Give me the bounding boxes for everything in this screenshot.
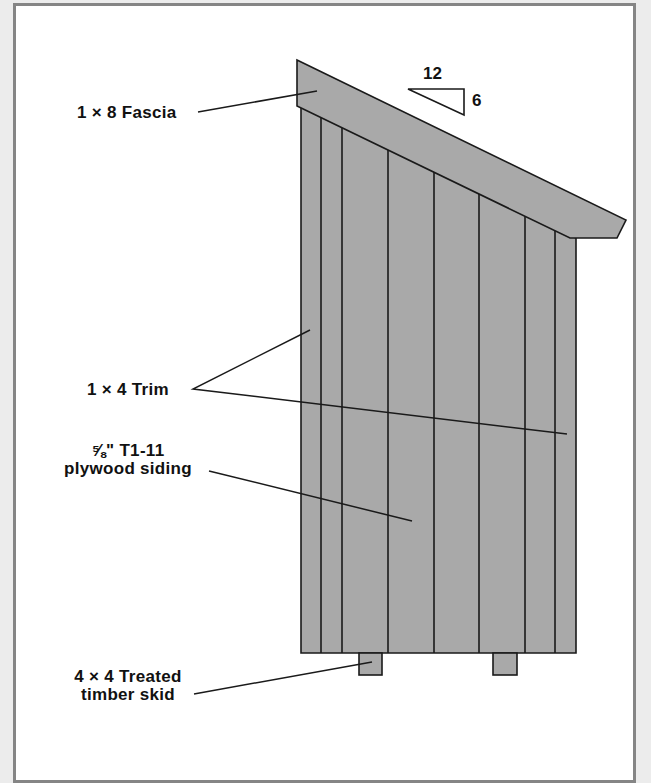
roof-slope-indicator bbox=[408, 89, 464, 115]
trim-label: 1 × 4 Trim bbox=[87, 381, 169, 399]
skid-label-line1: 4 × 4 Treated bbox=[62, 668, 194, 686]
skid-label-line2: timber skid bbox=[62, 686, 194, 704]
slope-rise-label: 6 bbox=[472, 91, 481, 111]
siding-label-line1: ⅝" T1-11 bbox=[52, 442, 204, 460]
skid-label: 4 × 4 Treated timber skid bbox=[62, 668, 194, 704]
skid-right bbox=[493, 653, 517, 675]
slope-run-label: 12 bbox=[423, 64, 442, 84]
siding-label: ⅝" T1-11 plywood siding bbox=[52, 442, 204, 478]
fascia-label: 1 × 8 Fascia bbox=[77, 104, 177, 122]
skid-leader bbox=[194, 662, 372, 694]
siding-label-line2: plywood siding bbox=[52, 460, 204, 478]
